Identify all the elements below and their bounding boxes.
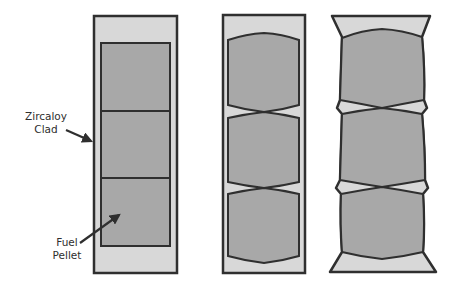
panel-initial-rod xyxy=(94,16,177,273)
fuel-pellet-top xyxy=(101,43,170,111)
panel-clad-ridging xyxy=(330,16,436,272)
zircaloy-clad-label: Zircaloy Clad xyxy=(16,110,76,136)
fuel-pellet-bottom xyxy=(341,187,424,259)
fuel-pellet-bottom xyxy=(228,188,299,263)
fuel-pellet-middle xyxy=(340,108,425,187)
clad-label-line2: Clad xyxy=(16,123,76,136)
fuel-label-line1: Fuel xyxy=(42,236,92,249)
fuel-pellet-middle xyxy=(101,111,170,178)
fuel-pellet-top xyxy=(340,29,424,108)
panel-hourglass-pellets xyxy=(223,15,305,273)
fuel-pellet-bottom xyxy=(101,178,170,246)
fuel-pellet-middle xyxy=(228,112,299,188)
fuel-label-line2: Pellet xyxy=(42,249,92,262)
fuel-pellet-label: Fuel Pellet xyxy=(42,236,92,262)
clad-label-line1: Zircaloy xyxy=(16,110,76,123)
fuel-pellet-top xyxy=(228,33,299,112)
